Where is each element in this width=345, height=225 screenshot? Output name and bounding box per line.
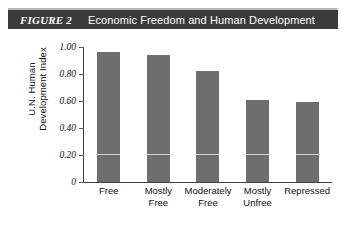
y-axis-tick-mark xyxy=(79,128,84,129)
y-axis-tick-label: 0 xyxy=(42,177,76,187)
y-axis-tick-mark xyxy=(79,47,84,48)
figure-title: Economic Freedom and Human Development xyxy=(88,14,315,26)
y-axis-tick-label: 1.00 xyxy=(42,42,76,52)
y-axis-tick-mark xyxy=(79,101,84,102)
y-axis-tick-label: 0.60 xyxy=(42,96,76,106)
y-axis-tick-labels: 1.000.800.600.400.200 xyxy=(42,30,76,225)
bar[interactable] xyxy=(296,102,319,182)
bar-chart: U.N. Human Development Index 1.000.800.6… xyxy=(0,30,345,225)
y-axis-tick-label: 0.80 xyxy=(42,69,76,79)
y-axis-tick-label: 0.40 xyxy=(42,123,76,133)
x-axis-tick-label-line: Repressed xyxy=(278,185,336,197)
bar[interactable] xyxy=(147,55,170,182)
bar-internal-gridline xyxy=(147,154,170,155)
y-axis-title-line-1: U.N. Human xyxy=(26,19,37,159)
bar-internal-gridline xyxy=(196,154,219,155)
bar-series xyxy=(84,30,332,182)
x-axis-tick-label-line: Unfree xyxy=(229,197,287,209)
x-axis-tick-labels: FreeMostlyFreeModeratelyFreeMostlyUnfree… xyxy=(84,185,332,225)
bar[interactable] xyxy=(97,52,120,182)
bar-slot xyxy=(233,30,283,182)
bar[interactable] xyxy=(196,71,219,182)
bar-internal-gridline xyxy=(246,154,269,155)
x-axis-line xyxy=(83,182,332,183)
bar-slot xyxy=(84,30,134,182)
bar[interactable] xyxy=(246,100,269,182)
y-axis-tick-mark xyxy=(79,74,84,75)
y-axis-tick-mark xyxy=(79,182,84,183)
bar-slot xyxy=(134,30,184,182)
x-axis-tick-label: Repressed xyxy=(278,185,336,197)
bar-slot xyxy=(282,30,332,182)
bar-internal-gridline xyxy=(296,154,319,155)
y-axis-tick-mark xyxy=(79,155,84,156)
figure-banner: FIGURE 2 Economic Freedom and Human Deve… xyxy=(8,8,338,29)
bar-slot xyxy=(183,30,233,182)
bar-internal-gridline xyxy=(97,154,120,155)
y-axis-tick-label: 0.20 xyxy=(42,150,76,160)
